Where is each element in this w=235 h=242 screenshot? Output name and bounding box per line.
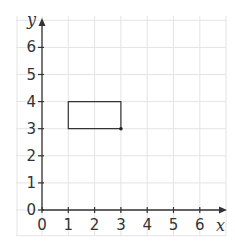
data-point [119, 127, 123, 131]
y-tick-label: 1 [26, 174, 36, 192]
x-tick-label: 2 [90, 216, 100, 234]
y-tick-label: 6 [26, 38, 36, 56]
y-tick-label: 4 [26, 93, 36, 111]
x-tick-label: 0 [37, 216, 47, 234]
coordinate-grid: 01234560123456 x y [0, 0, 235, 242]
tick-labels: 01234560123456 [26, 38, 204, 234]
y-axis-arrow-icon [39, 18, 46, 26]
x-tick-label: 5 [169, 216, 179, 234]
ticks [38, 47, 200, 213]
y-tick-label: 5 [26, 66, 36, 84]
y-axis-label: y [26, 10, 37, 29]
y-tick-label: 2 [26, 147, 36, 165]
shapes [68, 102, 122, 131]
x-tick-label: 1 [64, 216, 74, 234]
y-tick-label: 0 [26, 201, 36, 219]
x-tick-label: 6 [195, 216, 205, 234]
x-axis-label: x [216, 216, 225, 235]
x-tick-label: 3 [116, 216, 126, 234]
y-tick-label: 3 [26, 120, 36, 138]
x-tick-label: 4 [142, 216, 152, 234]
